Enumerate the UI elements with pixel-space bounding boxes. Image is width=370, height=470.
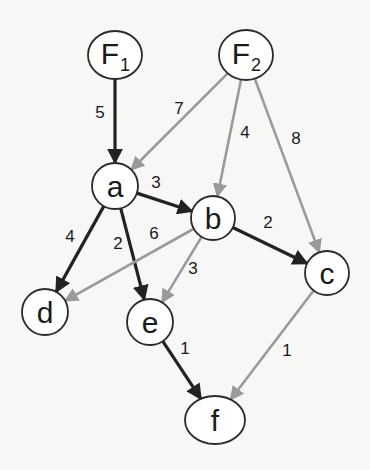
node-e: e (127, 299, 173, 345)
edge-weight-label: 1 (282, 341, 291, 360)
edge-weight-label: 4 (65, 227, 74, 246)
edge-weight-label: 6 (149, 224, 158, 243)
edge-a-to-e (121, 208, 145, 299)
edge-b-to-c (233, 228, 307, 264)
node-subscript: 1 (120, 55, 130, 75)
node-label: e (142, 306, 159, 339)
edge-weight-label: 1 (180, 339, 189, 358)
node-c: c (305, 251, 349, 295)
node-subscript: 2 (251, 55, 261, 75)
node-label: F (101, 37, 119, 70)
node-f: f (185, 396, 245, 444)
node-a: a (92, 163, 138, 209)
edge-a-to-b (137, 193, 192, 211)
node-label: a (107, 170, 124, 203)
node-label: d (37, 296, 54, 329)
node-f2: F2 (219, 30, 273, 80)
edge-weight-label: 7 (174, 99, 183, 118)
edge-labels-layer: 574834263211 (65, 99, 300, 360)
edge-weight-label: 4 (240, 123, 249, 142)
node-label: F (232, 37, 250, 70)
node-label: f (211, 404, 220, 437)
edge-f2-to-b (217, 80, 241, 197)
edge-weight-label: 8 (291, 129, 300, 148)
node-d: d (22, 289, 68, 335)
edge-a-to-d (56, 206, 104, 292)
node-b: b (191, 196, 235, 240)
edge-c-to-f (231, 290, 314, 399)
edge-weight-label: 3 (151, 173, 160, 192)
node-f1: F1 (88, 31, 142, 79)
edge-weight-label: 3 (188, 259, 197, 278)
edge-weight-label: 5 (95, 103, 104, 122)
flow-graph: 574834263211 F1F2abcdef (0, 0, 370, 470)
edge-f2-to-a (131, 73, 227, 169)
edge-weight-label: 2 (113, 234, 122, 253)
node-label: c (320, 257, 335, 290)
edge-weight-label: 2 (263, 213, 272, 232)
node-label: b (205, 202, 222, 235)
